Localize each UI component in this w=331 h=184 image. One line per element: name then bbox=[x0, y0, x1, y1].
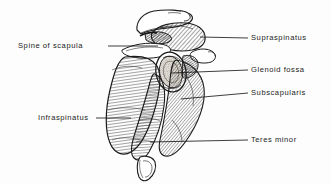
acromion-undersurface bbox=[140, 32, 171, 44]
inferior-angle-of-scapula bbox=[137, 156, 155, 181]
label-spine-of-scapula: Spine of scapula bbox=[18, 42, 83, 50]
label-infraspinatus: Infraspinatus bbox=[38, 114, 89, 122]
label-supraspinatus: Supraspinatus bbox=[251, 34, 307, 42]
label-glenoid-fossa: Glenoid fossa bbox=[251, 66, 305, 74]
anatomy-figure-page: Supraspinatus Glenoid fossa Subscapulari… bbox=[0, 0, 331, 184]
label-subscapularis: Subscapularis bbox=[251, 89, 306, 97]
label-teres-minor: Teres minor bbox=[251, 136, 297, 144]
leader-supraspinatus bbox=[200, 37, 248, 38]
